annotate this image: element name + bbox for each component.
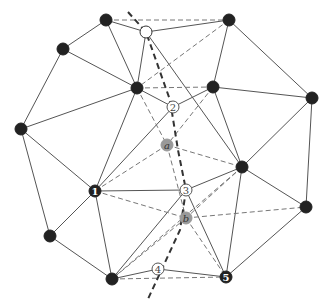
dashed-edge xyxy=(137,88,167,145)
node-n_lower_left xyxy=(44,230,56,242)
node-label: 1 xyxy=(92,186,99,197)
node-2: 2 xyxy=(167,101,179,113)
edge xyxy=(21,129,50,236)
edge xyxy=(21,129,95,191)
edge xyxy=(186,190,226,277)
edge xyxy=(173,87,213,107)
node-label: 4 xyxy=(155,264,161,275)
edge xyxy=(229,20,312,98)
node-n_left_upper xyxy=(57,43,69,55)
dashed-edge xyxy=(167,145,186,218)
edge xyxy=(50,236,112,279)
edge xyxy=(137,32,146,88)
dashed-edge xyxy=(186,218,226,277)
node-n_lower_right xyxy=(300,201,312,213)
node-label: b xyxy=(183,213,189,224)
node-a: a xyxy=(161,139,173,151)
edge xyxy=(242,98,312,167)
edge xyxy=(95,88,137,191)
edge xyxy=(112,190,186,279)
dashed-edges xyxy=(95,20,306,279)
edge xyxy=(63,49,137,88)
edge xyxy=(95,191,112,279)
edge xyxy=(213,87,312,98)
edge xyxy=(213,87,242,167)
thick-dashed-path xyxy=(128,12,186,299)
node-n_right xyxy=(306,92,318,104)
node-label: a xyxy=(164,140,170,151)
node-5: 5 xyxy=(220,271,232,283)
edge xyxy=(21,88,137,129)
node-n_top_open xyxy=(140,26,152,38)
node-1: 1 xyxy=(89,185,101,197)
edge xyxy=(146,32,242,167)
node-label: 3 xyxy=(183,185,189,196)
edge xyxy=(63,20,106,49)
triangulation-diagram: 2a13b45 xyxy=(0,0,330,299)
edge xyxy=(242,167,306,207)
edge xyxy=(95,190,186,191)
node-n_left xyxy=(15,123,27,135)
edge xyxy=(50,191,95,236)
node-4: 4 xyxy=(152,263,164,275)
edge xyxy=(21,49,63,129)
dashed-edge xyxy=(112,277,226,279)
dashed-edge xyxy=(95,191,186,218)
dashed-edge xyxy=(186,207,306,218)
node-n_bottom xyxy=(106,273,118,285)
nodes: 2a13b45 xyxy=(15,14,318,285)
node-n_top_right xyxy=(223,14,235,26)
node-label: 2 xyxy=(170,102,176,113)
node-3: 3 xyxy=(180,184,192,196)
node-b: b xyxy=(180,212,192,224)
dashed-edge xyxy=(112,218,186,279)
edge xyxy=(146,20,229,32)
edge xyxy=(306,98,312,207)
edge xyxy=(158,269,226,277)
dashed-edge xyxy=(137,87,213,88)
node-n_top_left xyxy=(100,14,112,26)
node-n_center_right xyxy=(207,81,219,93)
edge xyxy=(226,167,242,277)
edge xyxy=(226,207,306,277)
node-label: 5 xyxy=(223,272,230,283)
edge xyxy=(106,20,137,88)
node-n_center_left xyxy=(131,82,143,94)
edge xyxy=(186,167,242,190)
node-n_mid_right xyxy=(236,161,248,173)
edge xyxy=(95,107,173,191)
